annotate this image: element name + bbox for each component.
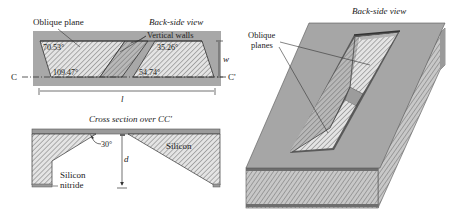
vertical-walls-label: Vertical walls — [147, 30, 194, 40]
silicon-label: Silicon — [166, 141, 192, 151]
cross-section-title: Cross section over CC' — [89, 114, 173, 124]
angle-top-left: 70.53° — [43, 43, 64, 52]
angle-30-label: 30° — [101, 140, 112, 149]
nitride-label-line2: nitride — [60, 180, 84, 190]
top-view: Oblique plane Back-side view Vertical wa… — [11, 17, 236, 104]
cross-section: Cross section over CC' 30° d Silicon Sil… — [32, 114, 220, 190]
nitride-bottom-right — [213, 184, 220, 187]
nitride-top-layer — [32, 129, 220, 134]
angle-top-right: 35.26° — [157, 43, 178, 52]
oblique-planes-label-line1: Oblique — [248, 30, 276, 40]
length-label: l — [121, 94, 124, 104]
depth-label: d — [124, 154, 129, 164]
oblique-plane-label: Oblique plane — [33, 17, 84, 27]
section-end-label: C' — [228, 72, 236, 82]
angle-bottom-right: 54.74° — [139, 68, 160, 77]
iso-view-title: Back-side view — [352, 6, 406, 16]
section-start-label: C — [11, 72, 17, 82]
width-label: w — [223, 54, 229, 64]
top-view-title: Back-side view — [149, 17, 203, 27]
nitride-label-line1: Silicon — [60, 170, 86, 180]
diagram-canvas: Oblique plane Back-side view Vertical wa… — [0, 0, 461, 221]
nitride-bottom-left — [32, 184, 52, 187]
isometric-view: Back-side view Oblique planes — [246, 6, 445, 208]
oblique-planes-label-line2: planes — [251, 40, 273, 50]
wafer-front-face — [246, 168, 378, 208]
angle-bottom-left: 109.47° — [53, 68, 78, 77]
